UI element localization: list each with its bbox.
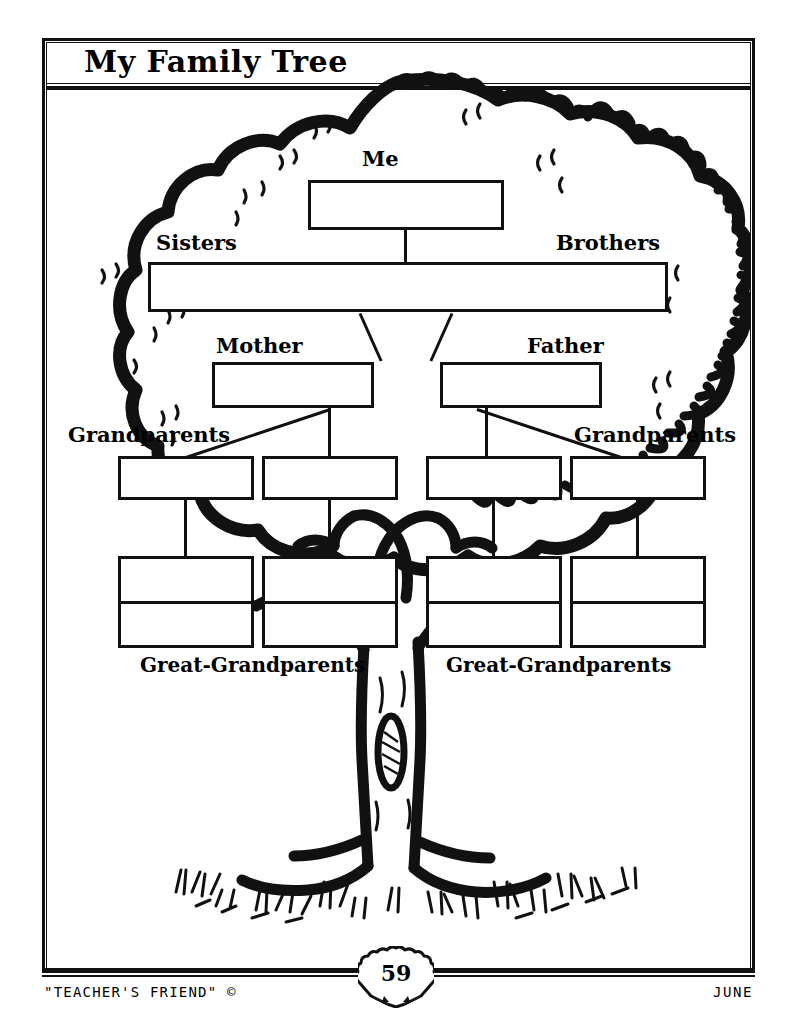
box-grandparent-3[interactable]	[426, 456, 562, 500]
connector-grandparent-3-to-great-3	[492, 500, 495, 556]
box-great-grandparent-4[interactable]	[570, 556, 706, 648]
connector-me-to-siblings	[404, 230, 407, 262]
family-tree-chart: Me Sisters Brothers Mother Father Grandp…	[0, 0, 789, 1036]
label-great-grandparents-paternal: Great-Grandparents	[446, 655, 671, 675]
box-grandparent-4[interactable]	[570, 456, 706, 500]
label-father: Father	[527, 335, 604, 356]
box-father[interactable]	[440, 362, 602, 408]
label-great-grandparents-maternal: Great-Grandparents	[140, 655, 365, 675]
worksheet-page: My Family Tree	[0, 0, 789, 1036]
page-number-badge: 59	[358, 946, 434, 1008]
page-number: 59	[358, 960, 434, 986]
box-siblings[interactable]	[148, 262, 668, 312]
box-grandparent-1[interactable]	[118, 456, 254, 500]
connector-mother-to-grandparent-2	[328, 408, 331, 457]
connector-siblings-to-father	[429, 313, 453, 362]
label-grandparents-maternal: Grandparents	[68, 424, 230, 445]
label-me: Me	[362, 148, 399, 169]
box-me[interactable]	[308, 180, 504, 230]
label-mother: Mother	[216, 335, 303, 356]
footer-month: JUNE	[713, 984, 753, 1000]
footer-credit: "TEACHER'S FRIEND" ©	[44, 984, 237, 1000]
box-great-grandparent-3[interactable]	[426, 556, 562, 648]
connector-grandparent-2-to-great-2	[328, 500, 331, 556]
box-great-grandparent-2[interactable]	[262, 556, 398, 648]
box-great-grandparent-1[interactable]	[118, 556, 254, 648]
connector-father-to-grandparent-3	[485, 408, 488, 457]
box-mother[interactable]	[212, 362, 374, 408]
connector-siblings-to-mother	[359, 313, 383, 362]
box-grandparent-2[interactable]	[262, 456, 398, 500]
label-grandparents-paternal: Grandparents	[574, 424, 736, 445]
label-sisters: Sisters	[156, 232, 237, 253]
connector-grandparent-1-to-great-1	[184, 500, 187, 556]
label-brothers: Brothers	[556, 232, 660, 253]
connector-grandparent-4-to-great-4	[636, 500, 639, 556]
